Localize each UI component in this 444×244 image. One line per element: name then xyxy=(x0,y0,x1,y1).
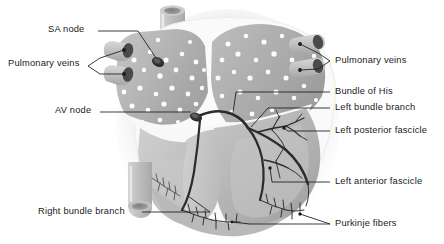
inferior-vena-cava xyxy=(128,162,152,218)
leader-purkinje-upper xyxy=(300,214,330,224)
label-pulmonary-veins-right: Pulmonary veins xyxy=(335,55,407,66)
label-av-node: AV node xyxy=(55,105,91,116)
pulmonary-vein-left-lower xyxy=(104,65,135,85)
label-left-anterior-fascicle: Left anterior fascicle xyxy=(335,176,422,187)
pulmonary-vein-left-upper xyxy=(104,41,135,61)
label-purkinje-fibers: Purkinje fibers xyxy=(335,218,397,229)
diagram-canvas: SA node Pulmonary veins AV node Right bu… xyxy=(0,0,444,244)
label-left-bundle-branch: Left bundle branch xyxy=(335,102,415,113)
label-bundle-of-his: Bundle of His xyxy=(335,86,393,97)
label-right-bundle-branch: Right bundle branch xyxy=(38,206,125,217)
label-pulmonary-veins-left: Pulmonary veins xyxy=(8,58,80,69)
label-sa-node: SA node xyxy=(48,24,84,35)
label-left-posterior-fascicle: Left posterior fascicle xyxy=(335,125,427,136)
